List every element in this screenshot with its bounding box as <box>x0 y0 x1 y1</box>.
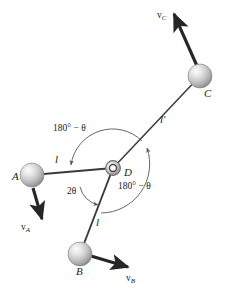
angle-label-lower-left: 2θ <box>67 187 76 197</box>
angle-label-upper-left: 180° − θ <box>53 124 86 134</box>
velocity-subscript-a: A <box>26 226 30 234</box>
rod-label-a-d: l <box>55 154 58 165</box>
arc-upper-left <box>71 129 142 165</box>
node-label-c: C <box>204 88 211 99</box>
sphere-b <box>68 242 92 266</box>
velocity-subscript-b: B <box>131 277 135 285</box>
pivot-node-d <box>106 161 121 176</box>
velocity-label-a: vA <box>21 223 30 234</box>
velocity-arrow-b <box>91 256 128 267</box>
pivot-inner-hole <box>110 165 117 172</box>
velocity-arrow-a <box>33 188 42 219</box>
diagram-canvas <box>0 0 227 288</box>
sphere-a <box>20 163 44 187</box>
node-label-b: B <box>76 266 83 277</box>
velocity-label-c: vC <box>157 11 166 22</box>
velocity-label-b: vB <box>126 274 135 285</box>
rod-d-b <box>80 168 113 254</box>
angle-label-lower-right: 180° − θ <box>118 182 151 192</box>
physics-diagram: A B C D l l l' 180° − θ 2θ 180° − θ vA v… <box>0 0 227 288</box>
velocity-arrow-c <box>174 14 197 66</box>
velocity-subscript-c: C <box>162 14 167 22</box>
rod-d-c <box>113 76 200 168</box>
rod-label-d-b: l <box>96 217 99 228</box>
rod-label-d-c: l' <box>160 114 165 125</box>
arc-lower-left <box>80 187 98 205</box>
sphere-c <box>188 64 212 88</box>
velocity-vector-group <box>33 14 197 267</box>
node-label-d: D <box>124 167 132 178</box>
node-label-a: A <box>12 171 19 182</box>
